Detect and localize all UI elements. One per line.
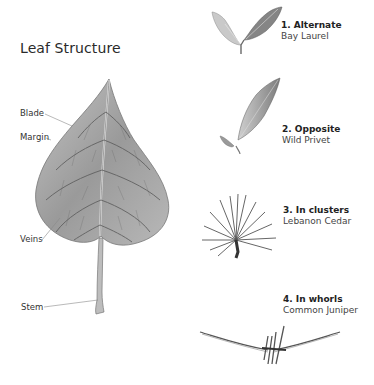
label-blade: Blade bbox=[20, 108, 44, 118]
leaf-stem bbox=[96, 238, 104, 314]
whorl-leaf-illustration bbox=[200, 326, 340, 364]
label-margin: Margin bbox=[20, 132, 49, 142]
label-veins: Veins bbox=[20, 234, 43, 244]
alternate-leaf-illustration bbox=[212, 7, 282, 54]
arrangement-heading: 3. In clusters bbox=[283, 205, 351, 216]
label-stem: Stem bbox=[21, 302, 43, 312]
arrangement-clusters: 3. In clusters Lebanon Cedar bbox=[283, 205, 351, 227]
arrangement-heading: 2. Opposite bbox=[282, 124, 340, 135]
arrangement-heading: 1. Alternate bbox=[281, 20, 342, 31]
main-leaf bbox=[36, 79, 169, 314]
arrangement-heading: 4. In whorls bbox=[283, 294, 358, 305]
arrangement-alternate: 1. Alternate Bay Laurel bbox=[281, 20, 342, 42]
arrangement-opposite: 2. Opposite Wild Privet bbox=[282, 124, 340, 146]
arrangement-species: Common Juniper bbox=[283, 305, 358, 316]
opposite-leaf-illustration bbox=[220, 78, 280, 154]
diagram-illustration bbox=[0, 0, 374, 385]
arrangement-species: Wild Privet bbox=[282, 135, 340, 146]
arrangement-species: Lebanon Cedar bbox=[283, 216, 351, 227]
page-title: Leaf Structure bbox=[20, 40, 121, 56]
arrangement-whorls: 4. In whorls Common Juniper bbox=[283, 294, 358, 316]
cluster-leaf-illustration bbox=[202, 194, 276, 258]
arrangement-species: Bay Laurel bbox=[281, 31, 342, 42]
